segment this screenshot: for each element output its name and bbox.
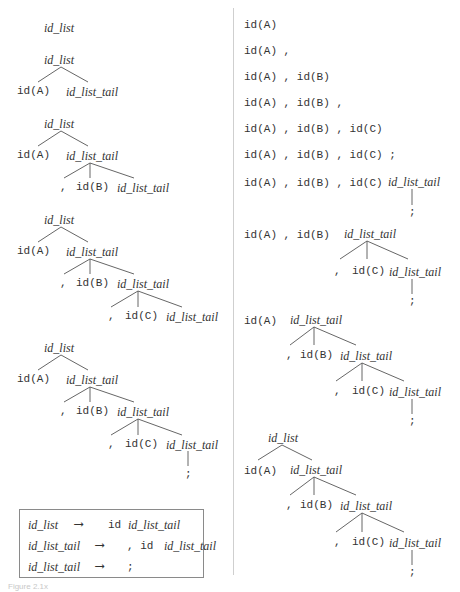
node-id-a: id(A)	[17, 374, 50, 385]
node-id-b: id(B)	[76, 278, 109, 289]
node-id-list-tail: id_list_tail	[389, 386, 441, 398]
node-id-list: id_list	[44, 342, 74, 354]
node-id-list-tail: id_list_tail	[389, 266, 441, 278]
node-semicolon: ;	[409, 416, 416, 427]
node-comma: ,	[60, 182, 67, 193]
node-comma: ,	[286, 350, 293, 361]
node-id-list-tail: id_list_tail	[66, 246, 118, 258]
node-id-c: id(C)	[125, 311, 158, 322]
rule-lhs: id_list_tail	[28, 561, 80, 573]
node-id-list-tail: id_list_tail	[117, 278, 169, 290]
node-id-b: id(B)	[300, 350, 333, 361]
node-id-list: id_list	[44, 118, 74, 130]
node-comma: ,	[334, 537, 341, 548]
node-id-a: id(A)	[244, 316, 277, 327]
node-id-list-tail: id_list_tail	[290, 314, 342, 326]
node-semicolon: ;	[409, 207, 416, 218]
node-semicolon: ;	[409, 296, 416, 307]
node-id-list-tail: id_list_tail	[117, 406, 169, 418]
node-id-a: id(A)	[244, 466, 277, 477]
arrow-icon: ⟶	[75, 518, 83, 531]
node-semicolon: ;	[409, 567, 416, 578]
node-id-list-tail: id_list_tail	[66, 150, 118, 162]
rule-rhs-nonterminal: id_list_tail	[128, 519, 180, 531]
parse-tree-figure: id_list id_list id(A) id_list_tail id_li…	[0, 0, 460, 592]
bottom-up-row-2: id(A) ,	[244, 46, 290, 57]
node-comma: ,	[108, 439, 115, 450]
node-id-list-tail: id_list_tail	[340, 350, 392, 362]
figure-caption: Figure 2.1x	[8, 582, 48, 591]
forest-text: id(A) , id(B) , id(C)	[244, 178, 383, 189]
node-comma: ,	[334, 386, 341, 397]
node-id-list-tail: id_list_tail	[344, 228, 396, 240]
node-id-list: id_list	[44, 22, 74, 34]
node-id-list-tail: id_list_tail	[66, 86, 118, 98]
node-id-list-tail: id_list_tail	[166, 311, 218, 323]
node-id-list-tail: id_list_tail	[340, 500, 392, 512]
node-comma: ,	[108, 311, 115, 322]
node-comma: ,	[334, 266, 341, 277]
node-id-list: id_list	[268, 432, 298, 444]
node-id-c: id(C)	[352, 266, 385, 277]
node-comma: ,	[60, 406, 67, 417]
bottom-up-row-6: id(A) , id(B) , id(C) ;	[244, 150, 396, 161]
node-id-a: id(A)	[17, 86, 50, 97]
arrow-icon: ⟶	[96, 539, 104, 552]
node-id-list-tail: id_list_tail	[66, 374, 118, 386]
node-id-c: id(C)	[352, 537, 385, 548]
node-id-c: id(C)	[352, 386, 385, 397]
bottom-up-row-3: id(A) , id(B)	[244, 72, 330, 83]
node-id-list-tail: id_list_tail	[117, 182, 169, 194]
node-id-list-tail: id_list_tail	[166, 439, 218, 451]
node-id-list: id_list	[44, 54, 74, 66]
bottom-up-row-1: id(A)	[244, 20, 277, 31]
node-id-b: id(B)	[76, 182, 109, 193]
rule-lhs: id_list_tail	[28, 540, 80, 552]
rule-rhs-terminal: ;	[127, 562, 134, 573]
bottom-up-row-4: id(A) , id(B) ,	[244, 98, 343, 109]
rule-rhs-terminal: id	[108, 520, 121, 531]
node-semicolon: ;	[185, 469, 192, 480]
node-id-a: id(A)	[17, 246, 50, 257]
node-id-list-tail: id_list_tail	[389, 537, 441, 549]
node-id-list-tail: id_list_tail	[290, 464, 342, 476]
column-divider	[233, 8, 234, 575]
node-comma: ,	[60, 278, 67, 289]
node-id-b: id(B)	[76, 406, 109, 417]
grammar-box: id_list ⟶ id id_list_tail id_list_tail ⟶…	[19, 509, 204, 578]
node-id-a: id(A)	[17, 150, 50, 161]
rule-rhs-terminal: , id	[127, 541, 153, 552]
node-id-c: id(C)	[125, 439, 158, 450]
node-id-list-tail: id_list_tail	[388, 176, 440, 188]
arrow-icon: ⟶	[96, 560, 104, 573]
node-id-b: id(B)	[300, 500, 333, 511]
node-id-list: id_list	[44, 214, 74, 226]
forest-text: id(A) , id(B)	[244, 230, 330, 241]
rule-lhs: id_list	[28, 519, 58, 531]
node-comma: ,	[286, 500, 293, 511]
bottom-up-row-5: id(A) , id(B) , id(C)	[244, 124, 383, 135]
rule-rhs-nonterminal: id_list_tail	[164, 540, 216, 552]
